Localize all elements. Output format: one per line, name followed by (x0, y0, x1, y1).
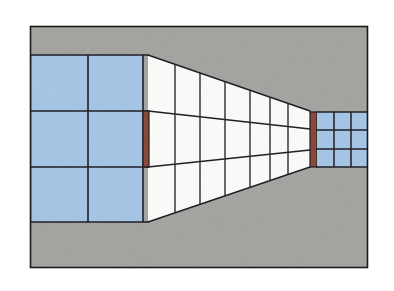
perspective-corridor-figure: One-point perspective interior corridor … (0, 0, 394, 291)
figure-root: One-point perspective interior corridor … (0, 0, 394, 291)
paper-grain-overlay (30, 26, 368, 268)
